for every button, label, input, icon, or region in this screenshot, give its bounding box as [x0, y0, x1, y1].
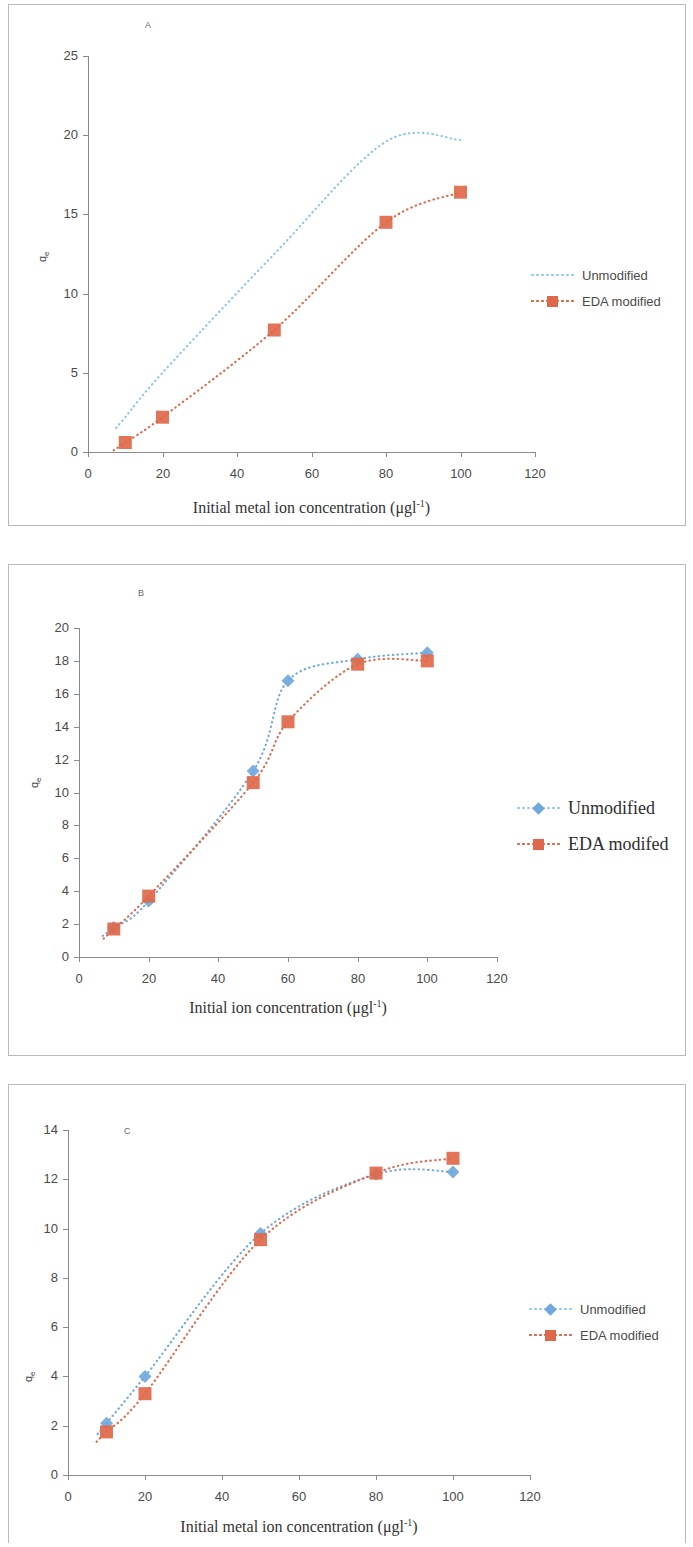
- legend-label-unmodified: Unmodified: [576, 268, 648, 283]
- panel-c-y-axis-title: qe: [22, 1371, 37, 1382]
- legend-item-eda[interactable]: EDA modified: [530, 288, 661, 314]
- diamond-marker-icon: [544, 1303, 557, 1316]
- y-title-sub: e: [28, 1371, 37, 1375]
- y-title-text: q: [28, 782, 40, 788]
- square-marker-icon: [547, 296, 558, 307]
- data-point-square: [370, 1167, 383, 1180]
- x-title-close: ): [425, 499, 430, 516]
- legend-label-eda: EDA modified: [574, 1328, 659, 1343]
- legend-swatch-unmodified: [528, 1303, 574, 1315]
- legend-label-eda: EDA modified: [576, 294, 661, 309]
- x-title-text: Initial ion concentration (μgl: [189, 999, 373, 1016]
- data-point-diamond: [447, 1165, 460, 1178]
- diamond-marker-icon: [532, 802, 545, 815]
- legend-item-unmodified[interactable]: Unmodified: [516, 790, 669, 826]
- legend-swatch-unmodified: [530, 269, 576, 281]
- panel-b-x-axis-title: Initial ion concentration (μgl-1): [79, 998, 497, 1017]
- x-title-sup: -1: [416, 498, 424, 509]
- legend-swatch-eda: [528, 1329, 574, 1341]
- data-point-square: [380, 216, 393, 229]
- y-title-text: q: [22, 1376, 34, 1382]
- legend-item-unmodified[interactable]: Unmodified: [530, 262, 661, 288]
- data-point-diamond: [247, 765, 260, 778]
- x-title-close: ): [412, 1518, 417, 1535]
- data-point-square: [139, 1387, 152, 1400]
- panel-b-y-axis-title: qe: [28, 777, 43, 788]
- data-point-square: [268, 324, 281, 337]
- legend-item-eda[interactable]: EDA modified: [528, 1322, 659, 1348]
- panel-c: C 02468101214020406080100120 qe Initial …: [0, 1080, 693, 1547]
- legend-swatch-eda: [530, 295, 576, 307]
- data-point-square: [351, 658, 364, 671]
- data-point-square: [454, 186, 467, 199]
- data-point-square: [421, 654, 434, 667]
- legend-item-unmodified[interactable]: Unmodified: [528, 1296, 659, 1322]
- x-title-sup: -1: [373, 998, 381, 1009]
- legend-label-unmodified: Unmodified: [562, 798, 655, 819]
- panel-a-y-axis-title: qe: [36, 251, 51, 262]
- data-point-square: [142, 890, 155, 903]
- figure-page: A 0510152025020406080100120 qe Initial m…: [0, 0, 693, 1547]
- data-point-square: [107, 923, 120, 936]
- data-point-square: [282, 715, 295, 728]
- data-point-square: [119, 436, 132, 449]
- data-point-square: [156, 411, 169, 424]
- panel-a: A 0510152025020406080100120 qe Initial m…: [0, 0, 693, 530]
- y-title-sub: e: [34, 777, 43, 781]
- y-title-sub: e: [42, 251, 51, 255]
- data-point-square: [254, 1233, 267, 1246]
- legend-swatch-eda: [516, 838, 562, 850]
- data-point-square: [100, 1425, 113, 1438]
- dotted-line-icon: [530, 274, 576, 276]
- panel-b-legend: Unmodified EDA modifed: [516, 790, 669, 862]
- data-point-square: [447, 1152, 460, 1165]
- x-title-text: Initial metal ion concentration (μgl: [193, 499, 417, 516]
- legend-label-unmodified: Unmodified: [574, 1302, 646, 1317]
- panel-c-x-axis-title: Initial metal ion concentration (μgl-1): [68, 1517, 530, 1536]
- legend-item-eda[interactable]: EDA modifed: [516, 826, 669, 862]
- panel-b: B 02468101214161820020406080100120 qe In…: [0, 560, 693, 1060]
- panel-a-x-axis-title: Initial metal ion concentration (μgl-1): [88, 498, 535, 517]
- data-point-square: [247, 776, 260, 789]
- square-marker-icon: [533, 839, 544, 850]
- square-marker-icon: [545, 1330, 556, 1341]
- y-title-text: q: [36, 256, 48, 262]
- x-title-text: Initial metal ion concentration (μgl: [180, 1518, 404, 1535]
- x-title-close: ): [382, 999, 387, 1016]
- panel-c-legend: Unmodified EDA modified: [528, 1296, 659, 1348]
- legend-label-eda: EDA modifed: [562, 834, 669, 855]
- legend-swatch-unmodified: [516, 802, 562, 814]
- series-line-unmodified: [116, 133, 460, 428]
- panel-a-legend: Unmodified EDA modified: [530, 262, 661, 314]
